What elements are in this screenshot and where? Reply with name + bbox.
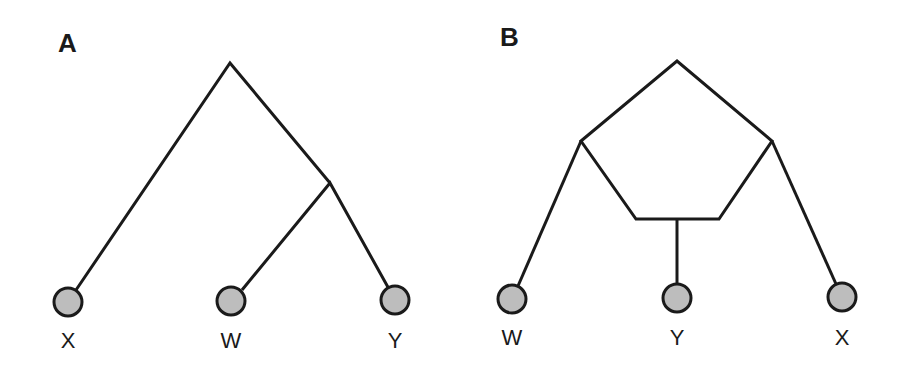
network-b-edge-x (772, 141, 836, 284)
panel-b: B W Y X (498, 22, 856, 350)
leaf-label-w: W (502, 325, 523, 350)
panel-a-label: A (58, 28, 77, 58)
leaf-label-w: W (221, 328, 242, 353)
tree-a-internal-edges (242, 183, 389, 290)
leaf-node-w (498, 285, 526, 313)
leaf-label-y: Y (670, 325, 685, 350)
tree-a-root-edges (76, 63, 330, 290)
leaf-node-x (54, 288, 82, 316)
network-b-edge-w (518, 141, 581, 286)
panel-b-label: B (500, 22, 519, 52)
leaf-label-x: X (835, 325, 850, 350)
panel-a: A X W Y (54, 28, 409, 353)
leaf-node-w (217, 287, 245, 315)
network-b-pentagon (581, 61, 772, 219)
leaf-node-x (828, 283, 856, 311)
diagram-canvas: A X W Y B W Y X (0, 0, 903, 373)
leaf-label-x: X (61, 328, 76, 353)
leaf-label-y: Y (388, 328, 403, 353)
leaf-node-y (663, 284, 691, 312)
leaf-node-y (381, 286, 409, 314)
